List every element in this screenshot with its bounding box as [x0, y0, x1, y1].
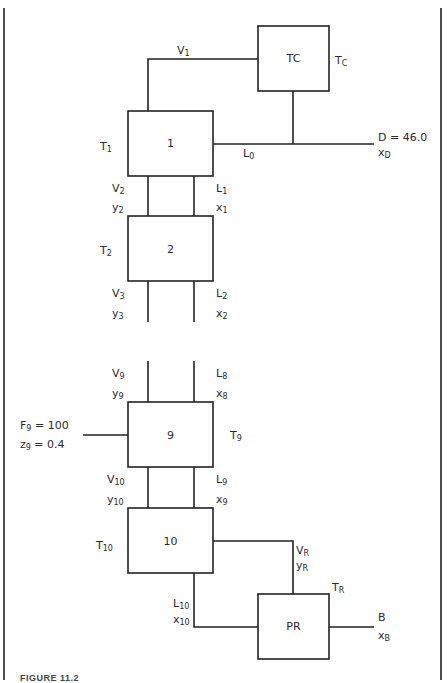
stream-l10 — [194, 573, 258, 627]
temp-t2: T2 — [100, 245, 112, 257]
label-x2: x2 — [216, 308, 228, 320]
temp-tr: TR — [332, 582, 344, 594]
label-l9: L9 — [216, 474, 227, 486]
temp-t9: T9 — [230, 430, 242, 442]
label-vr: VR — [296, 545, 309, 557]
label-v3: V3 — [112, 288, 125, 300]
label-l0: L0 — [243, 148, 254, 160]
stage-1-label: 1 — [128, 137, 213, 150]
label-y9: y9 — [112, 388, 124, 400]
label-y10: y10 — [107, 494, 124, 506]
stage-10-label: 10 — [128, 535, 213, 548]
label-x8: x8 — [216, 388, 228, 400]
label-xb: xB — [378, 630, 390, 642]
label-l10: L10 — [173, 598, 189, 610]
temp-t1: T1 — [100, 141, 112, 153]
label-x1: x1 — [216, 202, 228, 214]
label-d: D = 46.0 — [378, 132, 427, 144]
temp-t10: T10 — [96, 540, 113, 552]
label-feed-flow: F9 = 100 — [20, 420, 69, 432]
label-v1: V1 — [177, 45, 190, 57]
label-x10: x10 — [173, 614, 190, 626]
figure-caption: FIGURE 11.2 — [20, 673, 79, 683]
label-l2: L2 — [216, 288, 227, 300]
stage-9-label: 9 — [128, 429, 213, 442]
label-v2: V2 — [112, 183, 125, 195]
reboiler-label: PR — [258, 620, 329, 633]
stream-vr — [213, 541, 293, 594]
label-y2: y2 — [112, 202, 124, 214]
stream-v1 — [148, 59, 258, 111]
condenser-label: TC — [258, 52, 329, 65]
stage-2-label: 2 — [128, 243, 213, 256]
label-b: B — [378, 612, 386, 624]
label-v9: V9 — [112, 368, 125, 380]
label-y3: y3 — [112, 308, 124, 320]
label-l8: L8 — [216, 368, 227, 380]
label-v10: V10 — [107, 474, 125, 486]
label-feed-comp: z9 = 0.4 — [20, 439, 65, 451]
label-yr: yR — [296, 560, 308, 572]
label-x9: x9 — [216, 494, 228, 506]
label-xd: xD — [378, 147, 391, 159]
temp-tc: TC — [335, 55, 347, 67]
label-l1: L1 — [216, 183, 227, 195]
